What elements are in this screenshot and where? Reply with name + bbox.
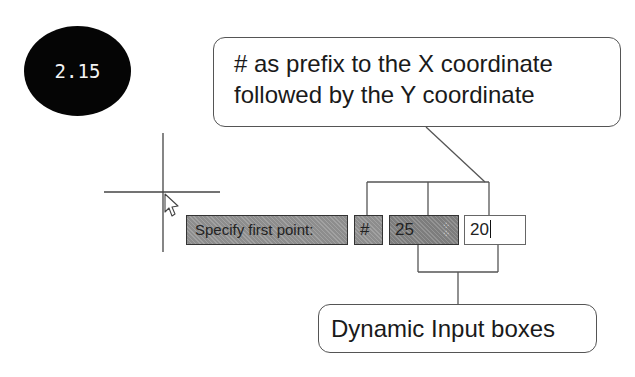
y-coordinate-input[interactable]: 20	[464, 215, 526, 245]
text-caret	[490, 220, 492, 238]
prefix-hash-box: #	[354, 215, 383, 245]
x-coordinate-input[interactable]: 25 ⁘⁘	[389, 215, 459, 245]
tab-lock-icon: ⁘⁘	[442, 222, 450, 238]
dynamic-input-prompt: Specify first point:	[186, 215, 348, 245]
top-leader-line	[426, 127, 485, 182]
callout-dynamic-input-boxes: Dynamic Input boxes	[318, 304, 597, 353]
